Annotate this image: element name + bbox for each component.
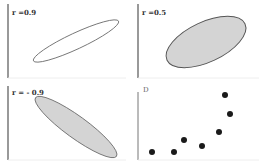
- panel-r-0-5: r =0.5: [133, 0, 266, 82]
- panel-label: r =0.5: [142, 8, 166, 17]
- scatter-plot: [133, 82, 266, 164]
- panel-label: D: [143, 86, 149, 94]
- panel-d: D: [133, 82, 266, 164]
- panel-label: r =0.9: [12, 8, 36, 17]
- panel-r-neg-0-9: r = - 0.9: [0, 82, 133, 164]
- panel-label: r = - 0.9: [12, 88, 44, 97]
- panel-r-0-9: r =0.9: [0, 0, 133, 82]
